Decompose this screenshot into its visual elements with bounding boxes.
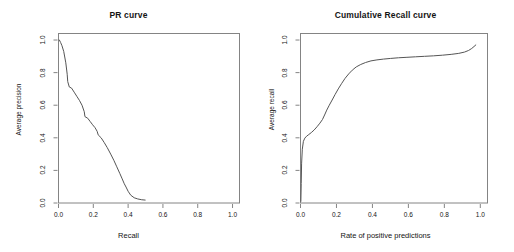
data-line-pr-curve [59,40,145,200]
y-tick-label: 0.8 [280,63,287,83]
y-tick-label: 0.4 [38,128,45,148]
x-tick-label: 0.0 [54,211,63,218]
axis-box-cumulative-recall-curve [301,34,488,204]
x-tick-label: 0.0 [296,211,305,218]
y-tick-label: 0.8 [38,63,45,83]
y-tick-label: 0.0 [280,193,287,213]
x-tick-label: 0.8 [193,211,202,218]
x-tick-label: 1.0 [476,211,485,218]
x-axis-title-cumulative-recall-curve: Rate of positive predictions [257,231,514,240]
x-tick-label: 0.2 [89,211,98,218]
y-axis-title-cumulative-recall-curve: Average recall [268,75,275,145]
y-tick-label: 0.6 [38,95,45,115]
panel-pr-curve: PR curve 0.00.20.40.60.81.0 0.00.20.40.6… [0,0,257,252]
y-tick-label: 0.2 [280,160,287,180]
y-axis-title-pr-curve: Average precision [15,75,22,145]
x-tick-label: 0.4 [124,211,133,218]
x-tick-label: 0.8 [440,211,449,218]
x-tick-label: 0.4 [368,211,377,218]
axis-box-pr-curve [59,34,240,204]
x-axis-ticks-cumulative-recall-curve [301,204,481,208]
data-line-cumulative-recall-curve [301,45,476,201]
y-axis-ticks-pr-curve [54,40,58,203]
y-tick-label: 1.0 [38,30,45,50]
x-tick-label: 0.6 [404,211,413,218]
y-tick-label: 0.4 [280,128,287,148]
figure-canvas: PR curve 0.00.20.40.60.81.0 0.00.20.40.6… [0,0,514,252]
x-tick-label: 0.2 [332,211,341,218]
x-tick-label: 0.6 [158,211,167,218]
y-tick-label: 0.2 [38,160,45,180]
x-axis-ticks-pr-curve [59,204,233,208]
x-axis-title-pr-curve: Recall [0,231,257,240]
y-tick-label: 0.0 [38,193,45,213]
y-tick-label: 0.6 [280,95,287,115]
y-tick-label: 1.0 [280,30,287,50]
panel-cumulative-recall-curve: Cumulative Recall curve 0.00.20.40.60.81… [257,0,514,252]
x-tick-label: 1.0 [228,211,237,218]
y-axis-ticks-cumulative-recall-curve [296,40,300,203]
